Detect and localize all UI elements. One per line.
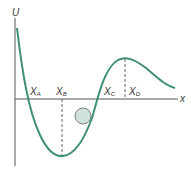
point-label-xd: XD [129, 87, 140, 99]
diagram-canvas [0, 0, 191, 174]
point-label-xc: XC [104, 87, 115, 99]
ball [75, 108, 91, 124]
point-label-xb: XB [56, 87, 67, 99]
y-axis-label: U [12, 8, 19, 18]
x-axis-label: x [180, 94, 185, 104]
potential-energy-diagram: U x XA XB XC XD [0, 0, 191, 174]
point-label-xa: XA [30, 87, 41, 99]
